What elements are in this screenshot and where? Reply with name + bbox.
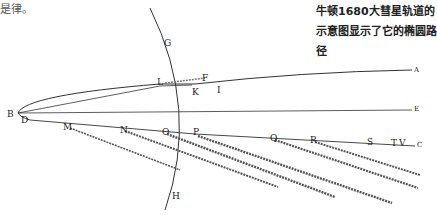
label-s: S bbox=[367, 137, 373, 147]
tail-p bbox=[198, 136, 392, 203]
comet-path-upper bbox=[18, 70, 412, 113]
label-d: D bbox=[21, 115, 28, 125]
label-o: O bbox=[162, 127, 169, 137]
label-n: N bbox=[120, 125, 128, 135]
label-k: K bbox=[192, 87, 199, 97]
tail-n bbox=[125, 131, 278, 187]
label-e: E bbox=[414, 105, 419, 113]
label-t: T bbox=[391, 138, 397, 148]
comet-orbit-diagram: G H L F K I A E C B D M N O P Q R S T V bbox=[0, 0, 437, 215]
label-p: P bbox=[193, 127, 199, 137]
label-h: H bbox=[172, 191, 180, 201]
label-l: L bbox=[157, 77, 163, 87]
label-c: C bbox=[417, 141, 422, 149]
label-i: I bbox=[217, 85, 221, 95]
label-a: A bbox=[413, 66, 420, 74]
tail-upper bbox=[165, 78, 205, 83]
label-m: M bbox=[63, 122, 72, 132]
label-g: G bbox=[164, 38, 171, 48]
comet-path-lower bbox=[18, 113, 415, 146]
label-b: B bbox=[7, 109, 14, 119]
label-v: V bbox=[398, 138, 406, 148]
label-f: F bbox=[202, 73, 208, 83]
axis-line-be bbox=[18, 110, 412, 113]
label-r: R bbox=[310, 135, 317, 145]
label-q: Q bbox=[270, 133, 277, 143]
